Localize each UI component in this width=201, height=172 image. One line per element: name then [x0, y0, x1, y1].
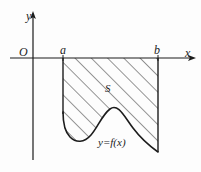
left-bound-label-a: a: [60, 44, 66, 56]
definite-integral-figure: y x O a b S y=f(x): [0, 0, 201, 172]
y-axis: [30, 11, 36, 160]
region-area-label-s: S: [105, 83, 111, 94]
right-bound-label-b: b: [154, 44, 160, 56]
x-axis-label: x: [185, 47, 190, 59]
function-equation-label: y=f(x): [98, 137, 126, 148]
origin-label: O: [19, 46, 28, 58]
y-axis-label: y: [26, 10, 31, 22]
